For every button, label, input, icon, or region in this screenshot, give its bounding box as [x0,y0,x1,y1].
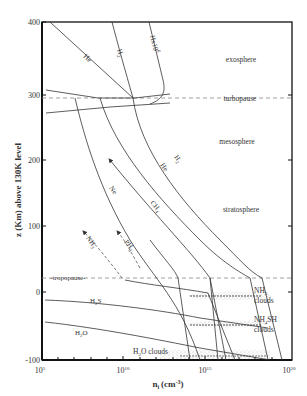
cloud-label-nh3-line2: clouds [254,296,274,305]
curve-label-hx10-6: Hx106 [148,34,161,54]
curve-label-nh3: NH3 [84,235,99,251]
region-label-stratosphere: stratosphere [223,205,260,214]
x-tick-label: 105 [35,366,46,375]
curve-upper-crossing-a [46,90,170,98]
y-tick-label: 200 [28,156,40,165]
y-tick-label: 300 [28,91,40,100]
curve-upper-crossing-b [46,103,170,113]
x-tick-label: 1015 [199,366,213,375]
curve-label-h2-mid: H2 [172,154,184,166]
curve-h2-upper [112,22,133,98]
region-label-mesosphere: mesosphere [219,137,255,146]
y-ticks [42,22,292,360]
curve-ch4 [110,160,210,278]
curve-label-he-top: He [82,53,93,64]
region-label-tropopause: -tropopause- [50,274,86,282]
y-tick-label: -100 [25,356,40,365]
region-label-turbopause: turbopause [224,94,258,103]
curve-lower-b [210,278,218,360]
curve-label-ne: Ne [107,185,118,196]
region-label-exosphere: exosphere [226,55,257,64]
curve-label-h2s: H2S [90,297,102,306]
curve-label-h2-top: H2 [114,48,125,59]
cloud-label-nh4sh: NH4SH [254,315,278,325]
curve-label-he-mid: He [158,162,169,173]
y-tick-label: 0 [36,288,40,297]
x-tick-label: 1020 [283,366,297,375]
y-tick-label: 400 [28,18,40,27]
cloud-label-nh3: NH3 [254,286,268,296]
y-axis-title: z (Km) above 130K level [13,143,23,237]
x-axis-title: ni(cm-3) [152,379,183,390]
curve-ne [75,98,200,360]
curve-label-h2o: H2O [75,329,88,338]
curve-ch4-lower [210,278,226,360]
chart: 400 300 200 100 0 -100 105 1010 1015 102… [0,0,307,396]
x-tick-label: 1010 [117,366,131,375]
curve-he-upper [50,22,133,98]
plot-frame [42,22,292,360]
cloud-label-h2o: H2O clouds [133,347,168,357]
cloud-label-nh4sh-line2: clouds [254,325,274,334]
y-tick-label: 100 [28,222,40,231]
